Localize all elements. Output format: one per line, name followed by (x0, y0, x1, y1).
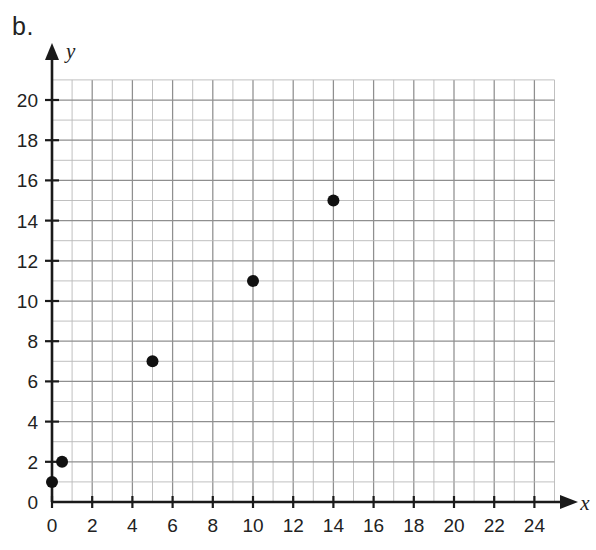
y-tick-label: 6 (27, 371, 38, 392)
axis-names: xy (64, 39, 590, 515)
y-tick-label: 10 (17, 291, 38, 312)
x-tick-label: 8 (208, 515, 219, 536)
x-tick-label: 4 (127, 515, 138, 536)
y-tick-label: 0 (27, 492, 38, 513)
tick-labels: 02468101214161820222402468101214161820 (17, 90, 546, 536)
x-tick-label: 20 (443, 515, 464, 536)
x-tick-label: 12 (283, 515, 304, 536)
grid-lines (52, 80, 555, 502)
y-tick-label: 8 (27, 331, 38, 352)
y-tick-label: 4 (27, 412, 38, 433)
y-tick-label: 16 (17, 170, 38, 191)
y-tick-label: 20 (17, 90, 38, 111)
x-tick-label: 18 (403, 515, 424, 536)
x-tick-label: 24 (524, 515, 546, 536)
scatter-plot: 02468101214161820222402468101214161820 x… (0, 0, 596, 550)
x-tick-label: 16 (363, 515, 384, 536)
axis-lines (45, 43, 578, 509)
data-point (147, 355, 159, 367)
y-tick-label: 12 (17, 251, 38, 272)
x-tick-label: 10 (242, 515, 263, 536)
x-tick-label: 2 (87, 515, 98, 536)
y-tick-label: 2 (27, 452, 38, 473)
data-point (247, 275, 259, 287)
data-point (327, 195, 339, 207)
data-point (46, 476, 58, 488)
x-tick-label: 14 (323, 515, 345, 536)
y-tick-label: 18 (17, 130, 38, 151)
x-tick-label: 22 (484, 515, 505, 536)
x-tick-label: 0 (47, 515, 58, 536)
y-tick-label: 14 (17, 211, 39, 232)
plot-svg: 02468101214161820222402468101214161820 x… (0, 0, 596, 550)
x-tick-label: 6 (167, 515, 178, 536)
tick-marks (45, 100, 534, 508)
data-point (56, 456, 68, 468)
y-axis-label: y (64, 39, 76, 63)
x-axis-label: x (579, 491, 590, 515)
